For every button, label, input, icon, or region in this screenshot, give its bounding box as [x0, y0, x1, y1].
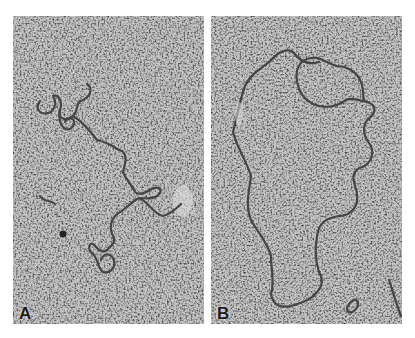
- micrograph-texture-a: [13, 16, 204, 324]
- panel-label-b: B: [217, 305, 229, 322]
- micrograph-panel-b: B: [211, 16, 402, 324]
- micrograph-texture-b: [211, 16, 402, 324]
- panel-label-a: A: [19, 305, 31, 322]
- micrograph-panel-a: A: [13, 16, 204, 324]
